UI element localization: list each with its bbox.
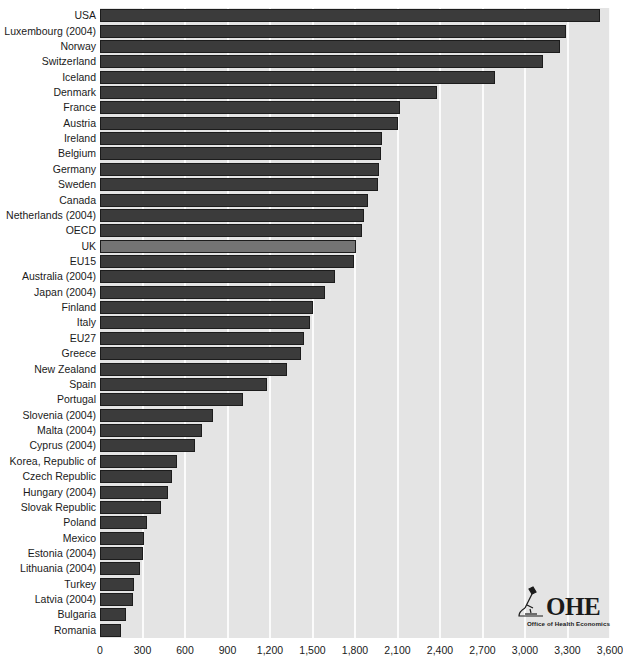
bar-row: Czech Republic (0, 469, 622, 484)
category-label: New Zealand (0, 364, 96, 375)
category-label: Japan (2004) (0, 287, 96, 298)
bar-row: Malta (2004) (0, 423, 622, 438)
bar (100, 547, 143, 560)
category-label: Spain (0, 379, 96, 390)
bar (100, 532, 144, 545)
bar-row: Portugal (0, 392, 622, 407)
category-label: Portugal (0, 394, 96, 405)
bar-row: Cyprus (2004) (0, 438, 622, 453)
bar-row: Norway (0, 39, 622, 54)
category-label: Czech Republic (0, 471, 96, 482)
bar-rows: USALuxembourg (2004)NorwaySwitzerlandIce… (0, 8, 622, 638)
bar-row: New Zealand (0, 361, 622, 376)
bar (100, 608, 126, 621)
bar (100, 578, 134, 591)
bar-row: Austria (0, 116, 622, 131)
x-tick-label: 2,700 (469, 644, 495, 656)
bar (100, 316, 310, 329)
bar (100, 178, 378, 191)
x-tick-label: 600 (176, 644, 194, 656)
x-tick-label: 2,100 (384, 644, 410, 656)
category-label: Malta (2004) (0, 425, 96, 436)
bar-row: Japan (2004) (0, 285, 622, 300)
bar (100, 486, 168, 499)
bar-row: Italy (0, 315, 622, 330)
bar (100, 132, 382, 145)
bar-row: Mexico (0, 530, 622, 545)
x-tick-label: 1,800 (342, 644, 368, 656)
bar-row: Poland (0, 515, 622, 530)
bar (100, 147, 381, 160)
bar-row: EU15 (0, 254, 622, 269)
category-label: Sweden (0, 179, 96, 190)
microscope-icon (516, 585, 546, 619)
x-tick-label: 2,400 (427, 644, 453, 656)
bar (100, 240, 356, 253)
category-label: Latvia (2004) (0, 594, 96, 605)
bar-row: Switzerland (0, 54, 622, 69)
bar (100, 163, 379, 176)
category-label: Iceland (0, 72, 96, 83)
x-tick-label: 3,300 (554, 644, 580, 656)
bar-row: Canada (0, 192, 622, 207)
x-tick-label: 1,200 (257, 644, 283, 656)
category-label: USA (0, 10, 96, 21)
ohe-logo: OHE Office of Health Economics (516, 585, 610, 631)
bar (100, 439, 195, 452)
bar (100, 71, 495, 84)
category-label: Slovak Republic (0, 502, 96, 513)
bar (100, 255, 354, 268)
category-label: Denmark (0, 87, 96, 98)
category-label: Mexico (0, 533, 96, 544)
bar-row: UK (0, 238, 622, 253)
bar-row: Estonia (2004) (0, 546, 622, 561)
bar-row: Netherlands (2004) (0, 208, 622, 223)
bar-row: Spain (0, 377, 622, 392)
bar-row: Lithuania (2004) (0, 561, 622, 576)
bar-row: Korea, Republic of (0, 454, 622, 469)
bar (100, 9, 600, 22)
category-label: Romania (0, 625, 96, 636)
x-tick-label: 1,500 (299, 644, 325, 656)
bar-row: Iceland (0, 69, 622, 84)
bar (100, 516, 147, 529)
bar (100, 455, 177, 468)
bar (100, 593, 133, 606)
bar-row: Australia (2004) (0, 269, 622, 284)
bar (100, 117, 398, 130)
bar (100, 209, 364, 222)
bar-row: Greece (0, 346, 622, 361)
category-label: Bulgaria (0, 609, 96, 620)
bar (100, 194, 368, 207)
bar-row: Hungary (2004) (0, 484, 622, 499)
category-label: UK (0, 241, 96, 252)
category-label: Finland (0, 302, 96, 313)
bar (100, 25, 566, 38)
category-label: Cyprus (2004) (0, 440, 96, 451)
bar (100, 101, 400, 114)
category-label: Norway (0, 41, 96, 52)
bar (100, 55, 543, 68)
bar-row: OECD (0, 223, 622, 238)
bar (100, 224, 362, 237)
bar-row: France (0, 100, 622, 115)
bar (100, 624, 121, 637)
category-label: Hungary (2004) (0, 487, 96, 498)
category-label: Luxembourg (2004) (0, 26, 96, 37)
bar (100, 470, 172, 483)
x-tick-label: 900 (219, 644, 237, 656)
bar-row: EU27 (0, 331, 622, 346)
bar-row: Denmark (0, 85, 622, 100)
bar-row: Slovenia (2004) (0, 408, 622, 423)
bar-row: Ireland (0, 131, 622, 146)
bar (100, 409, 213, 422)
bar (100, 301, 313, 314)
category-label: Netherlands (2004) (0, 210, 96, 221)
ohe-logo-text: OHE (546, 594, 600, 619)
category-label: Greece (0, 348, 96, 359)
bar (100, 363, 287, 376)
category-label: Italy (0, 317, 96, 328)
bar-row: Finland (0, 300, 622, 315)
x-tick-label: 3,600 (597, 644, 623, 656)
